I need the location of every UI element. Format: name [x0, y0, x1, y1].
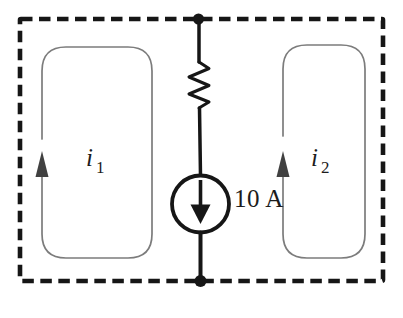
circuit-canvas: i1 i2 10 A — [0, 0, 403, 318]
mesh2-loop — [283, 45, 365, 258]
mesh2-label-base: i — [311, 144, 318, 171]
mesh1-label-subscript: 1 — [96, 158, 105, 177]
mesh1-label: i1 — [86, 144, 104, 177]
bottom-node — [195, 275, 207, 287]
mesh2-label-subscript: 2 — [321, 158, 330, 177]
resistor — [189, 62, 209, 108]
current-source-value-label: 10 A — [234, 185, 284, 212]
mesh2-arrow-up-icon — [277, 151, 290, 177]
middle-wire — [200, 108, 201, 176]
top-node — [193, 14, 204, 25]
mesh1-loop — [42, 47, 152, 258]
mesh1-label-base: i — [86, 144, 93, 171]
mesh2-label: i2 — [311, 144, 329, 177]
mesh1-arrow-up-icon — [36, 151, 49, 177]
circuit-diagram-svg: i1 i2 10 A — [0, 0, 403, 318]
